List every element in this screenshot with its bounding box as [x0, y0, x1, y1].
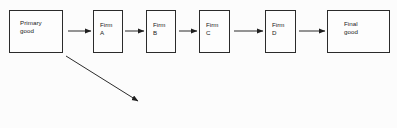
- node-firm-c[interactable]: Firm C: [199, 10, 230, 53]
- node-firm-d[interactable]: Firm D: [265, 10, 296, 53]
- node-label-firm-b: Firm B: [153, 21, 166, 38]
- node-label-firm-a: Firm A: [100, 21, 113, 38]
- arrow-primary-good-diagonal: [66, 56, 138, 101]
- node-primary-good[interactable]: Primary good: [9, 10, 63, 53]
- node-final-good[interactable]: Final good: [327, 10, 390, 53]
- node-label-firm-c: Firm C: [206, 21, 219, 38]
- node-label-primary-good: Primary good: [20, 19, 42, 36]
- node-label-final-good: Final good: [344, 20, 358, 37]
- flow-diagram: Primary goodFirm AFirm BFirm CFirm DFina…: [0, 0, 397, 128]
- node-firm-a[interactable]: Firm A: [93, 10, 123, 53]
- node-firm-b[interactable]: Firm B: [146, 10, 176, 53]
- node-label-firm-d: Firm D: [272, 21, 285, 38]
